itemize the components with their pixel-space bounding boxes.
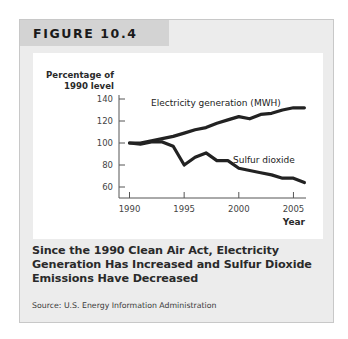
y-tick-label: 140 (97, 94, 113, 104)
figure-caption: Since the 1990 Clean Air Act, Electricit… (32, 244, 332, 286)
sulfur-dioxide-label: Sulfur dioxide (233, 155, 295, 165)
x-tick-label: 1990 (119, 204, 141, 214)
electricity-generation-line (130, 108, 305, 143)
y-tick-label: 80 (102, 160, 113, 170)
x-tick-label: 2005 (283, 204, 305, 214)
figure-source: Source: U.S. Energy Information Administ… (32, 301, 216, 310)
x-tick-label: 1995 (173, 204, 195, 214)
x-axis-label: Year (282, 217, 306, 227)
y-tick-label: 60 (102, 182, 113, 192)
y-tick-label: 120 (97, 116, 113, 126)
line-chart: 60801001201401990199520002005YearElectri… (0, 0, 348, 339)
x-tick-label: 2000 (228, 204, 250, 214)
y-tick-label: 100 (97, 138, 113, 148)
electricity-generation-label: Electricity generation (MWH) (151, 98, 281, 108)
